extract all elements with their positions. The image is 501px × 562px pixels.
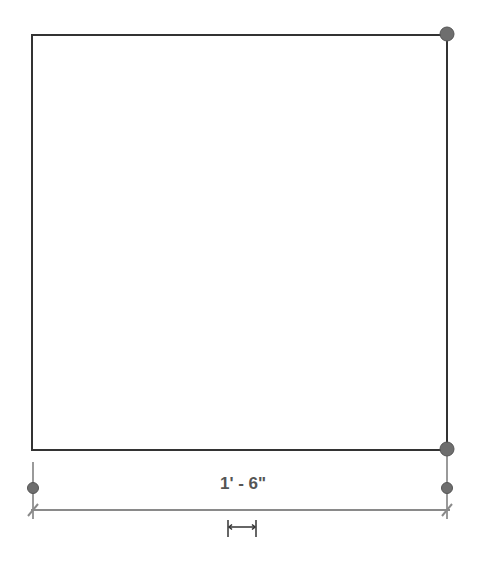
corner-grip-bottom-right[interactable] <box>440 442 454 456</box>
dimension-value-label[interactable]: 1' - 6" <box>193 474 293 494</box>
corner-grip-top-right[interactable] <box>440 27 454 41</box>
flip-arrows-icon[interactable] <box>228 520 256 537</box>
dimension-grip-left[interactable] <box>28 483 39 494</box>
rectangle-shape[interactable] <box>32 35 447 450</box>
dimension-grip-right[interactable] <box>442 483 453 494</box>
